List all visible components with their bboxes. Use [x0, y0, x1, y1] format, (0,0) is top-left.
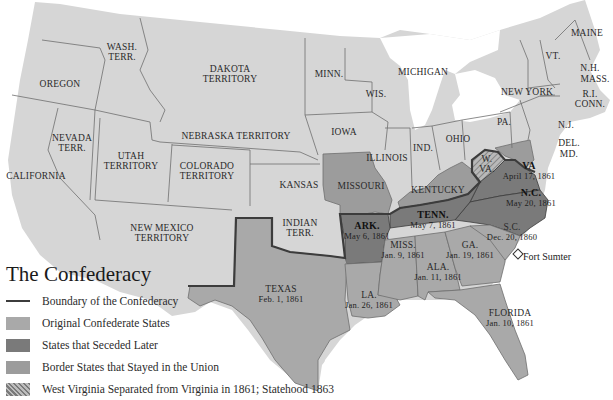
hatch-swatch-icon	[6, 383, 30, 396]
label-wis: WIS.	[366, 89, 387, 99]
label-california: CALIFORNIA	[6, 171, 66, 181]
label-maine: MAINE	[571, 28, 603, 38]
label-conn: CONN.	[575, 99, 605, 109]
label-dakota-territory: DAKOTA TERRITORY	[203, 64, 257, 84]
label-north-carolina: N.C. May 20, 1861	[506, 188, 556, 208]
label-ind: IND.	[413, 143, 433, 153]
label-nj: N.J.	[558, 120, 574, 130]
label-fort-sumter: Fort Sumter	[523, 251, 571, 262]
label-utah-territory: UTAH TERRITORY	[104, 151, 158, 171]
label-ri: R.I.	[582, 89, 597, 99]
label-mississippi: MISS. Jan. 9, 1861	[381, 240, 424, 260]
label-virginia: VA April 17, 1861	[503, 161, 556, 181]
label-georgia: GA. Jan. 19, 1861	[446, 240, 494, 260]
label-arkansas: ARK. May 6, 1861	[344, 221, 389, 241]
legend-item-seceded-later: States that Seceded Later	[6, 334, 366, 356]
label-nebraska-territory: NEBRASKA TERRITORY	[181, 131, 290, 141]
label-pa: PA.	[497, 117, 511, 127]
label-md: MD.	[560, 149, 578, 159]
label-vt: VT.	[546, 51, 561, 61]
label-minn: MINN.	[315, 69, 344, 79]
legend-item-boundary: Boundary of the Confederacy	[6, 290, 366, 312]
legend-item-border: Border States that Stayed in the Union	[6, 356, 366, 378]
label-florida: FLORIDA Jan. 10, 1861	[486, 308, 534, 328]
label-west-virginia: W. VA.	[479, 154, 494, 174]
label-ohio: OHIO	[446, 134, 471, 144]
original-swatch-icon	[6, 317, 30, 330]
label-michigan: MICHIGAN	[398, 67, 448, 77]
legend-item-west-virginia: West Virginia Separated from Virginia in…	[6, 378, 366, 400]
label-del: DEL.	[558, 138, 580, 148]
legend: Boundary of the Confederacy Original Con…	[6, 290, 366, 400]
legend-item-original: Original Confederate States	[6, 312, 366, 334]
label-new-york: NEW YORK	[501, 87, 553, 97]
label-oregon: OREGON	[40, 79, 81, 89]
label-missouri: MISSOURI	[338, 181, 385, 191]
label-kansas: KANSAS	[279, 180, 318, 190]
label-mass: MASS.	[580, 74, 609, 84]
label-kentucky: KENTUCKY	[411, 185, 465, 195]
label-nh: N.H.	[580, 63, 599, 73]
label-wash-terr: WASH. TERR.	[107, 42, 137, 62]
label-indian-terr: INDIAN TERR.	[283, 218, 318, 238]
label-nevada-terr: NEVADA TERR.	[52, 133, 92, 153]
label-colorado-territory: COLORADO TERRITORY	[180, 161, 234, 181]
label-alabama: ALA. Jan. 11, 1861	[414, 262, 462, 282]
label-illinois: ILLINOIS	[366, 153, 408, 163]
boundary-line-icon	[6, 300, 30, 302]
label-tennessee: TENN. May 7, 1861	[410, 210, 455, 230]
border-swatch-icon	[6, 361, 30, 374]
label-new-mexico-territory: NEW MEXICO TERRITORY	[130, 223, 193, 243]
seceded-later-swatch-icon	[6, 339, 30, 352]
map-title: The Confederacy	[6, 262, 151, 287]
label-south-carolina: S.C. Dec. 20, 1860	[487, 222, 537, 242]
label-iowa: IOWA	[331, 127, 357, 137]
